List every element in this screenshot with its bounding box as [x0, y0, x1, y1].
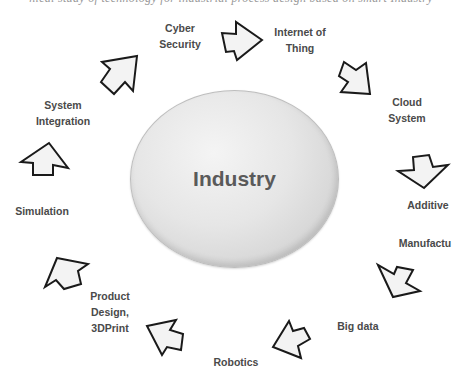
arrow-up-left-icon: [273, 321, 310, 358]
arrow-up-left-icon: [147, 320, 183, 355]
arrow-down-left-icon: [378, 265, 420, 297]
arrow-up-right-icon: [101, 56, 137, 94]
arrow-up-left-icon: [45, 258, 88, 289]
arrow-right-icon: [222, 22, 262, 60]
arrow-up-icon: [21, 143, 68, 175]
arrow-down-right-icon: [339, 62, 370, 94]
diagram-canvas: nical study of technology for industrial…: [0, 0, 462, 370]
arrows-layer: [0, 0, 462, 370]
arrow-down-icon: [398, 155, 448, 188]
